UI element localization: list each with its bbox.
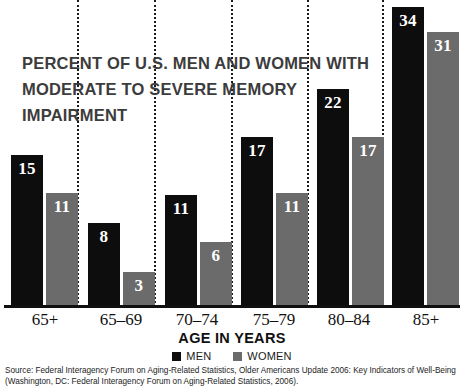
- x-tick-label-70-74: 70–74: [160, 310, 234, 330]
- x-axis-title: AGE IN YEARS: [0, 330, 464, 346]
- bar-women-85plus: 31: [427, 32, 459, 305]
- bar-value-label: 31: [427, 36, 459, 55]
- legend-label-women: WOMEN: [247, 350, 291, 362]
- bar-value-label: 8: [88, 227, 120, 246]
- x-tick-label-80-84: 80–84: [312, 310, 386, 330]
- bar-women-65plus: 11: [46, 193, 78, 305]
- source-line-1: Source: Federal Interagency Forum on Agi…: [5, 366, 459, 377]
- bar-women-80-84: 17: [352, 137, 384, 305]
- x-tick-label-85plus: 85+: [390, 310, 462, 330]
- bar-men-65-69: 8: [88, 223, 120, 305]
- bar-value-label: 11: [165, 199, 197, 218]
- source-note: Source: Federal Interagency Forum on Agi…: [5, 366, 459, 387]
- bar-women-70-74: 6: [200, 242, 232, 305]
- x-axis-line: [4, 305, 460, 308]
- chart-title-line-2: MODERATE TO SEVERE MEMORY IMPAIRMENT: [22, 76, 372, 128]
- bar-women-65-69: 3: [123, 272, 155, 305]
- bar-value-label: 3: [123, 276, 155, 295]
- bar-value-label: 6: [200, 246, 232, 265]
- bar-value-label: 11: [46, 197, 78, 216]
- plot-area: 15 11 8 3 11 6 17 11 22 17: [0, 0, 464, 308]
- legend-swatch-women-icon: [233, 352, 242, 361]
- bar-value-label: 34: [392, 11, 424, 30]
- bar-value-label: 11: [276, 197, 308, 216]
- chart-page: 15 11 8 3 11 6 17 11 22 17: [0, 0, 464, 392]
- bar-value-label: 17: [352, 141, 384, 160]
- x-tick-label-75-79: 75–79: [237, 310, 311, 330]
- chart-title-line-1: PERCENT OF U.S. MEN AND WOMEN WITH: [22, 54, 369, 72]
- legend-label-men: MEN: [186, 350, 211, 362]
- legend-swatch-men-icon: [172, 352, 181, 361]
- group-divider: [154, 0, 156, 307]
- bar-men-85plus: 34: [392, 7, 424, 305]
- legend: MEN WOMEN: [0, 350, 464, 362]
- bar-value-label: 15: [11, 159, 43, 178]
- source-line-2: (Washington, DC: Federal Interagency For…: [5, 377, 459, 388]
- bar-women-75-79: 11: [276, 193, 308, 305]
- legend-item-women: WOMEN: [233, 350, 291, 362]
- chart-title: PERCENT OF U.S. MEN AND WOMEN WITH MODER…: [22, 50, 372, 128]
- legend-item-men: MEN: [172, 350, 211, 362]
- bar-men-65plus: 15: [11, 155, 43, 305]
- bar-men-75-79: 17: [241, 137, 273, 305]
- x-tick-label-65-69: 65–69: [84, 310, 158, 330]
- bar-men-70-74: 11: [165, 195, 197, 305]
- x-tick-label-65plus: 65+: [9, 310, 81, 330]
- bar-value-label: 17: [241, 141, 273, 160]
